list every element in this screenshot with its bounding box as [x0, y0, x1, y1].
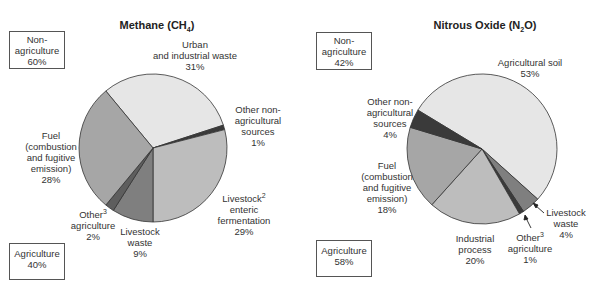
n2o-agriculture-box: Agriculture 58%: [316, 240, 372, 277]
nitrous-oxide-pie: [407, 74, 557, 224]
box-label: Agriculture: [10, 248, 64, 259]
label-other-non-agricultural-n2o: Other non-agriculturalsources4%: [360, 96, 420, 140]
methane-chart-title: Methane (CH4): [92, 19, 222, 31]
label-other-agriculture-ch4: Other3agriculture2%: [68, 209, 118, 242]
label-fuel-n2o: Fuel(combustionand fugitiveemission)18%: [356, 160, 418, 215]
box-value: 42%: [317, 57, 371, 68]
box-label: Non-: [10, 34, 64, 45]
box-label: agriculture: [317, 46, 371, 57]
n2o-non-agriculture-box: Non- agriculture 42%: [316, 32, 372, 70]
label-other-non-agricultural-ch4: Other non-agriculturalsources1%: [228, 104, 288, 148]
box-label: agriculture: [10, 45, 64, 56]
box-value: 60%: [10, 56, 64, 67]
label-livestock-enteric: Livestock2entericfermentation29%: [214, 193, 274, 237]
box-label: Agriculture: [317, 245, 371, 256]
label-agricultural-soil: Agricultural soil53%: [485, 57, 575, 79]
box-value: 40%: [10, 259, 64, 270]
box-label: Non-: [317, 35, 371, 46]
label-livestock-waste-ch4: Livestockwaste9%: [115, 226, 165, 259]
box-value: 58%: [317, 256, 371, 267]
label-livestock-waste-n2o: Livestockwaste4%: [540, 207, 592, 240]
label-industrial-process: Industrialprocess20%: [450, 233, 500, 266]
methane-pie: [79, 74, 227, 222]
n2o-chart-title: Nitrous Oxide (N2O): [420, 19, 550, 31]
label-fuel-ch4: Fuel(combustionand fugitiveemission)28%: [20, 130, 82, 185]
label-urban-industrial-waste: Urbanand industrial waste31%: [140, 39, 250, 72]
methane-non-agriculture-box: Non- agriculture 60%: [9, 31, 65, 69]
methane-agriculture-box: Agriculture 40%: [9, 243, 65, 280]
